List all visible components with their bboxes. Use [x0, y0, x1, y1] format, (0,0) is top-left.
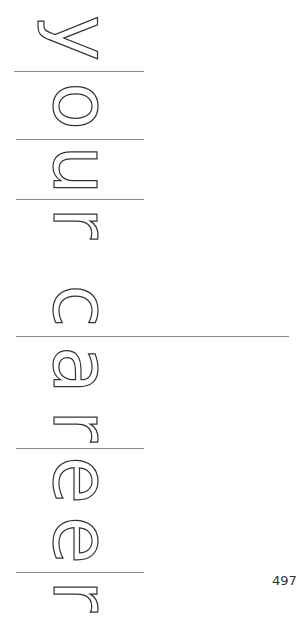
svg-text:y: y	[36, 15, 126, 61]
title-letter-o: o	[46, 73, 116, 139]
svg-text:c: c	[36, 285, 126, 328]
title-letter-a: a	[46, 338, 116, 402]
title-letter-r: r	[46, 200, 116, 246]
title-letter-e: e	[46, 510, 116, 570]
title-letter-y: y	[46, 4, 116, 72]
title-letter-e: e	[46, 450, 116, 510]
title-letter-c: c	[46, 276, 116, 336]
svg-text:r: r	[36, 410, 126, 443]
svg-text:r: r	[36, 207, 126, 240]
svg-text:o: o	[36, 82, 126, 130]
svg-text:e: e	[36, 516, 126, 564]
rule-5	[16, 572, 144, 573]
svg-text:e: e	[36, 456, 126, 504]
page-number: 497	[272, 573, 297, 588]
rule-4	[16, 448, 144, 449]
svg-text:u: u	[36, 145, 126, 194]
rule-long	[16, 336, 289, 337]
rule-2	[16, 139, 144, 140]
svg-text:r: r	[36, 580, 126, 613]
title-letter-u: u	[46, 141, 116, 199]
title-letter-r: r	[46, 404, 116, 448]
svg-text:a: a	[36, 346, 126, 394]
title-letter-r: r	[46, 574, 116, 617]
